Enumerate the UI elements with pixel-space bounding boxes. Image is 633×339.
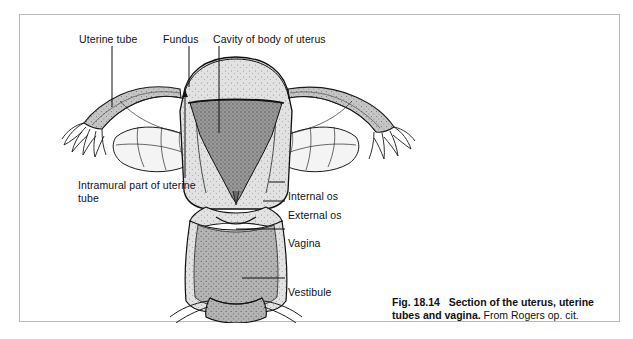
figure-number: Fig. 18.14 <box>392 296 440 308</box>
label-internal-os: Internal os <box>288 190 338 203</box>
left-uterine-tube <box>84 87 182 129</box>
label-fundus: Fundus <box>163 33 199 46</box>
figure-root: Uterine tube Fundus Cavity of body of ut… <box>0 0 633 339</box>
label-intramural-part-of-uterine-tube: Intramural part of uterine tube <box>78 179 203 204</box>
vagina <box>185 221 287 312</box>
figure-frame: Uterine tube Fundus Cavity of body of ut… <box>19 14 620 322</box>
label-external-os: External os <box>288 209 342 222</box>
label-cavity-of-body-of-uterus: Cavity of body of uterus <box>213 33 326 46</box>
label-uterine-tube: Uterine tube <box>79 33 137 46</box>
figure-source: From Rogers op. cit. <box>481 309 579 321</box>
right-uterine-tube <box>288 87 394 132</box>
uterus-anatomy-illustration <box>20 15 621 323</box>
label-vagina: Vagina <box>288 237 321 250</box>
figure-caption: Fig. 18.14 Section of the uterus, uterin… <box>392 296 607 322</box>
label-vestibule: Vestibule <box>288 286 332 299</box>
